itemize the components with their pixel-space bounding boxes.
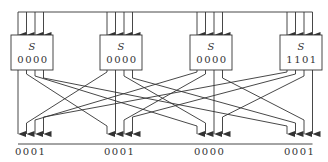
output-bits: 0001 [104,146,135,157]
sbox: S1101 [280,35,322,70]
sbox-permutation-diagram: S0000S0000S0000S1101 0001000100000001 [0,0,328,162]
sbox-name: S [29,41,36,52]
input-bus [18,12,313,35]
sbox-value: 0000 [196,54,227,65]
sbox-name: S [298,41,305,52]
permutation-wire [223,70,305,134]
output-bits: 0000 [194,146,225,157]
permutation-wire [223,70,305,134]
sbox-value: 1101 [286,54,317,65]
sbox-name: S [208,41,215,52]
sbox: S0000 [190,35,232,70]
permutation-wires [18,70,313,134]
sbox: S0000 [100,35,142,70]
sbox-group: S0000S0000S0000S1101 [11,35,322,70]
output-bits: 0001 [284,146,315,157]
sbox-name: S [118,41,125,52]
output-bits: 0001 [15,146,46,157]
output-bus: 0001000100000001 [15,144,315,157]
sbox-value: 0000 [106,54,137,65]
sbox: S0000 [11,35,53,70]
permutation-wire [44,70,288,134]
sbox-value: 0000 [17,54,48,65]
